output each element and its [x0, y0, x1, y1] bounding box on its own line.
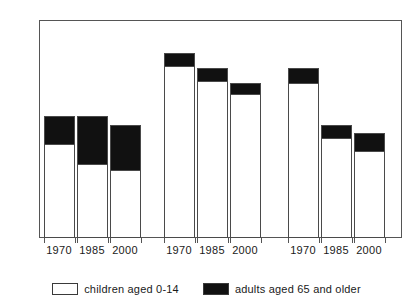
x-axis-label-5: 2000 — [232, 244, 258, 256]
x-axis-tick — [352, 238, 353, 243]
bar-series-layer — [39, 20, 402, 238]
legend-swatch-adults-icon — [203, 283, 229, 295]
x-axis-tick — [354, 238, 355, 243]
x-axis-tick — [75, 238, 76, 243]
x-axis-labels: 197019852000197019852000197019852000 — [0, 244, 413, 258]
x-axis-tick — [164, 238, 165, 243]
x-axis-label-4: 1985 — [199, 244, 225, 256]
y-axis: 0 20 40 60 80 100 — [0, 0, 39, 238]
legend-label-adults: adults aged 65 and older — [235, 283, 361, 295]
bar-china-1970 — [288, 68, 319, 238]
x-axis-tick — [385, 238, 386, 243]
x-axis-tick — [288, 238, 289, 243]
bar-china-1985 — [321, 125, 352, 238]
x-axis-label-8: 2000 — [356, 244, 382, 256]
chart-root: 0 20 40 60 80 100 1970198520001970198520… — [0, 0, 413, 304]
bar-developed-countries-1970 — [44, 116, 75, 238]
bar-segment-adults — [355, 134, 384, 151]
bar-segment-adults — [198, 69, 227, 82]
legend: children aged 0-14 adults aged 65 and ol… — [0, 279, 413, 299]
x-axis-tick — [110, 238, 111, 243]
x-axis-label-7: 1985 — [323, 244, 349, 256]
bar-segment-children — [322, 139, 351, 237]
x-axis-label-3: 1970 — [166, 244, 192, 256]
bar-developing-countries--1970 — [164, 53, 195, 238]
x-axis-label-1: 1985 — [79, 244, 105, 256]
x-axis-tick — [321, 238, 322, 243]
bar-segment-children — [198, 82, 227, 237]
x-axis-tick — [197, 238, 198, 243]
bar-segment-adults — [322, 126, 351, 139]
x-axis-label-6: 1970 — [290, 244, 316, 256]
legend-swatch-children-icon — [52, 283, 78, 295]
bar-developing-countries--1985 — [197, 68, 228, 238]
x-axis-tick — [44, 238, 45, 243]
x-axis-tick — [228, 238, 229, 243]
x-axis-tick — [108, 238, 109, 243]
x-axis-label-0: 1970 — [46, 244, 72, 256]
x-axis-tick — [77, 238, 78, 243]
x-axis-label-2: 2000 — [112, 244, 138, 256]
bar-segment-adults — [289, 69, 318, 84]
bar-segment-children — [231, 95, 260, 237]
x-axis-tick — [261, 238, 262, 243]
legend-label-children: children aged 0-14 — [84, 283, 179, 295]
bar-segment-children — [78, 165, 107, 237]
bar-segment-adults — [231, 84, 260, 95]
bar-segment-adults — [111, 126, 140, 172]
x-axis-tick — [230, 238, 231, 243]
bar-developed-countries-2000 — [110, 125, 141, 238]
bar-segment-children — [165, 67, 194, 237]
x-axis-tick — [195, 238, 196, 243]
bar-segment-adults — [165, 54, 194, 67]
group-labels — [0, 258, 413, 272]
legend-item-adults: adults aged 65 and older — [203, 283, 361, 295]
bar-segment-adults — [45, 117, 74, 145]
bar-segment-adults — [78, 117, 107, 165]
bar-developing-countries--2000 — [230, 83, 261, 238]
bar-segment-children — [45, 145, 74, 237]
bar-segment-children — [355, 152, 384, 237]
bar-developed-countries-1985 — [77, 116, 108, 238]
x-axis-tick — [319, 238, 320, 243]
bar-segment-children — [289, 84, 318, 237]
bar-segment-children — [111, 171, 140, 237]
chart-title — [0, 0, 413, 10]
x-axis-tick — [141, 238, 142, 243]
bar-china-2000 — [354, 133, 385, 238]
legend-item-children: children aged 0-14 — [52, 283, 179, 295]
